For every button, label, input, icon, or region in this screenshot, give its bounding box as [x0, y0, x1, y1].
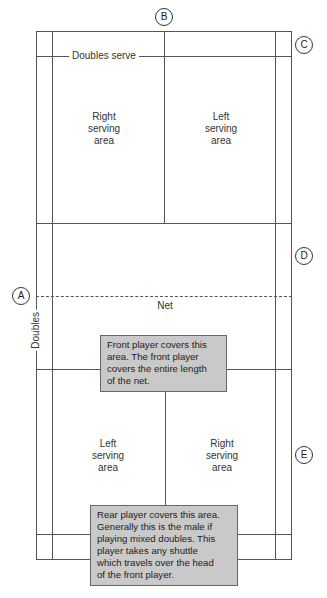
marker-b: B [155, 8, 173, 26]
net-label: Net [150, 300, 180, 312]
marker-d: D [295, 247, 313, 265]
marker-c: C [295, 36, 313, 54]
marker-a: A [12, 287, 30, 305]
doubles-sideline-left [36, 31, 37, 559]
top-left-serving-area-label: Left serving area [191, 111, 251, 147]
doubles-serve-label: Doubles serve [69, 50, 139, 62]
center-line-top [164, 31, 165, 223]
bottom-left-serving-area-label: Left serving area [78, 438, 138, 474]
singles-sideline-right [275, 31, 276, 559]
doubles-sideline-right [291, 31, 292, 559]
top-right-serving-area-label: Right serving area [74, 111, 134, 147]
doubles-label: Doubles [30, 310, 42, 351]
singles-sideline-left [52, 31, 53, 559]
marker-e: E [295, 446, 313, 464]
short-service-line-top [36, 223, 292, 224]
bottom-right-serving-area-label: Right serving area [192, 438, 252, 474]
front-player-callout: Front player covers this area. The front… [100, 335, 227, 392]
rear-player-callout: Rear player covers this area. Generally … [90, 505, 238, 586]
net-line [36, 296, 292, 297]
